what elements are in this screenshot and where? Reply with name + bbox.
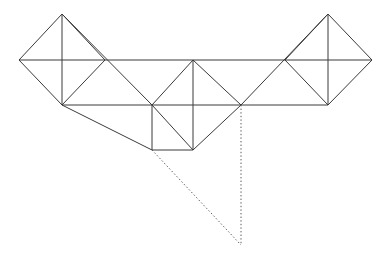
truss-diagram (0, 0, 387, 255)
truss-svg-canvas (0, 0, 387, 255)
